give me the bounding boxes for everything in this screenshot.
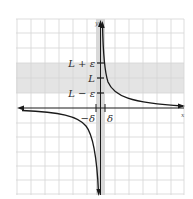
x-axis-left-arrow-icon	[17, 106, 24, 111]
label-delta: δ	[107, 113, 113, 124]
y-axis-label: y	[94, 19, 99, 27]
plot: y x L + ε L L − ε −δ δ	[0, 0, 193, 199]
epsilon-delta-diagram: y x L + ε L L − ε −δ δ	[0, 0, 193, 199]
label-L: L	[87, 73, 95, 84]
label-L-minus-epsilon: L − ε	[67, 88, 95, 99]
label-L-plus-epsilon: L + ε	[67, 58, 95, 69]
label-minus-delta: −δ	[81, 113, 95, 124]
